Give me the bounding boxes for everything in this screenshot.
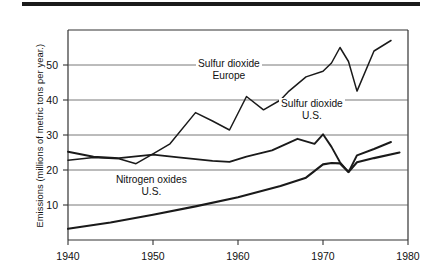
annotation-nox-line2: U.S. bbox=[116, 186, 187, 198]
annotation-sulfur-dioxide-us: Sulfur dioxide U.S. bbox=[279, 98, 345, 123]
annotation-so2us-line2: U.S. bbox=[281, 110, 343, 122]
x-tick-label-1980: 1980 bbox=[385, 251, 431, 262]
annotation-so2us-line1: Sulfur dioxide bbox=[281, 98, 343, 109]
x-tick-label-1960: 1960 bbox=[215, 251, 261, 262]
x-tick-label-1970: 1970 bbox=[300, 251, 346, 262]
x-tick-label-1950: 1950 bbox=[130, 251, 176, 262]
y-tick-label-40: 40 bbox=[32, 95, 58, 106]
x-tick-label-1940: 1940 bbox=[45, 251, 91, 262]
annotation-europe-line2: Europe bbox=[198, 70, 260, 82]
y-tick-label-50: 50 bbox=[32, 60, 58, 71]
annotation-nitrogen-oxides-us: Nitrogen oxides U.S. bbox=[114, 174, 189, 199]
annotation-sulfur-dioxide-europe: Sulfur dioxide Europe bbox=[196, 58, 262, 83]
annotation-europe-line1: Sulfur dioxide bbox=[198, 58, 260, 69]
emissions-figure: Emissions (millions of metric tons per y… bbox=[0, 0, 431, 276]
y-tick-label-30: 30 bbox=[32, 130, 58, 141]
y-tick-marks bbox=[63, 65, 68, 205]
y-tick-label-20: 20 bbox=[32, 165, 58, 176]
y-tick-label-10: 10 bbox=[32, 200, 58, 211]
plot-area bbox=[0, 0, 431, 276]
x-tick-marks bbox=[68, 240, 408, 245]
annotation-nox-line1: Nitrogen oxides bbox=[116, 174, 187, 185]
